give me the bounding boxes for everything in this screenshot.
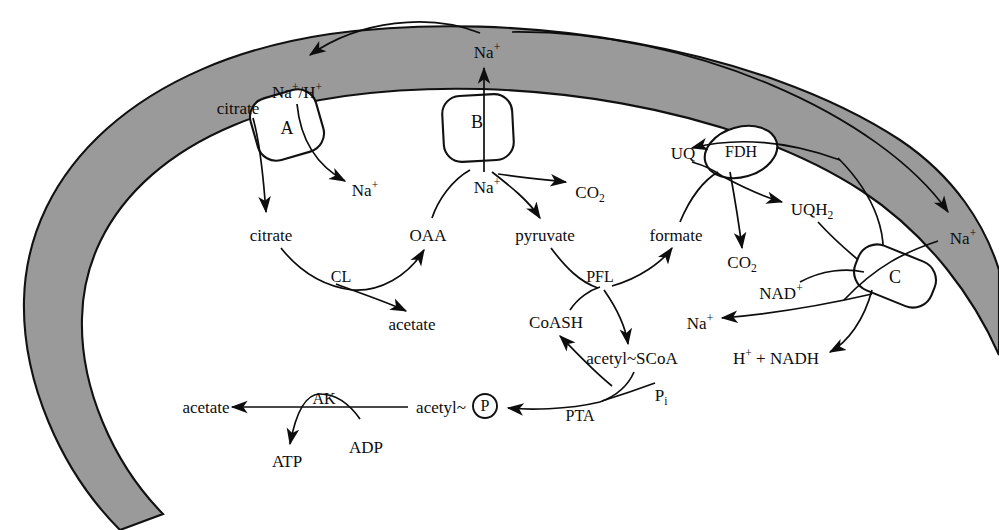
arrow-pfl-to-formate: [612, 248, 672, 286]
metabolite-pyruvate: pyruvate: [515, 227, 574, 244]
metabolite-pi: Pi: [655, 387, 668, 404]
metabolite-citrate-out: citrate: [217, 100, 259, 117]
membrane-ring: [24, 26, 999, 530]
pta-label: PTA: [566, 408, 595, 424]
cl-label: CL: [331, 269, 351, 285]
arrow-fdh-to-uqh2: [722, 176, 782, 202]
arrow-coash-to-pfl: [570, 287, 600, 310]
metabolite-co2-fdh: CO2: [727, 254, 756, 271]
arrow-cl-to-oaa: [352, 250, 424, 290]
arrow-formate-to-fdh: [680, 172, 718, 222]
metabolite-uqh2: UQH2: [791, 201, 834, 218]
transporter-a-label: A: [281, 119, 294, 137]
metabolite-na-c-out: Na+: [950, 230, 976, 247]
metabolite-acetate-ak: acetate: [182, 399, 229, 416]
metabolite-oaa: OAA: [410, 227, 447, 244]
metabolite-coash: CoASH: [529, 314, 583, 331]
metabolite-na-h-antiport: Na+/H+: [272, 84, 322, 101]
transporter-c-label: C: [889, 268, 901, 286]
pathway-diagram-canvas: A B C FDH CL PFL PTA AK Na+ Na+/H+ citra…: [0, 0, 999, 530]
pfl-label: PFL: [586, 269, 614, 285]
cl-reaction-arrows: [281, 248, 424, 311]
fdh-label: FDH: [725, 144, 757, 160]
arrow-oaa-to-b: [432, 170, 470, 218]
metabolite-na-left-in: Na+: [352, 182, 378, 199]
phosphate-circle-label: P: [481, 398, 490, 414]
metabolite-h-nadh: H+ + NADH: [733, 350, 819, 367]
arrow-b-to-co2: [498, 174, 566, 182]
metabolite-na-top: Na+: [474, 44, 500, 61]
transporter-b-label: B: [471, 113, 483, 131]
metabolite-na-b-in: Na+: [474, 179, 500, 196]
metabolite-na-c-in: Na+: [687, 315, 713, 332]
metabolite-acetate-cl: acetate: [388, 316, 435, 333]
ak-label: AK: [312, 391, 335, 407]
arrow-pfl-to-acetylscoa: [604, 290, 628, 344]
metabolite-acetyl-p: acetyl~: [416, 399, 466, 416]
arrow-pi-to-pta: [602, 383, 655, 401]
pathway-svg: [0, 0, 999, 530]
metabolite-citrate-in: citrate: [250, 227, 292, 244]
metabolite-acetyl-scoa: acetyl~SCoA: [586, 350, 677, 367]
arrow-acetylscoa-to-pta: [600, 372, 634, 402]
membrane-band: [24, 26, 999, 530]
metabolite-nad-plus: NAD+: [759, 285, 802, 302]
metabolite-uq: UQ: [671, 145, 696, 162]
metabolite-adp: ADP: [349, 439, 383, 456]
metabolite-co2-pyruvate: CO2: [575, 184, 604, 201]
metabolite-formate: formate: [650, 227, 703, 244]
pta-reaction-arrows: [508, 336, 655, 409]
metabolite-atp: ATP: [272, 453, 302, 470]
